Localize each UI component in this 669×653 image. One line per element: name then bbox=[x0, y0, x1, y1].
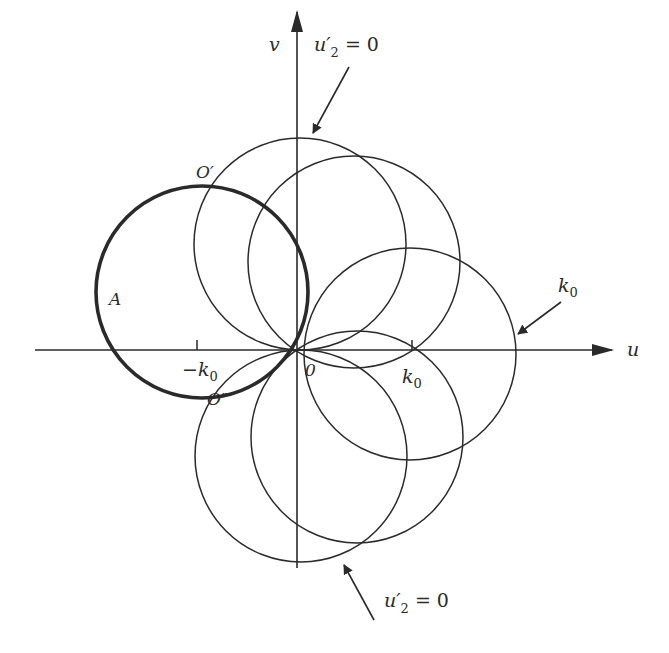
pointer-arrow-bottom bbox=[344, 565, 374, 620]
circle-family-diagram: v u 0 −k0 k0 A O′ O″ k0 u′2 = 0 u′2 = 0 bbox=[0, 0, 669, 653]
k0-annotation: k0 bbox=[558, 274, 578, 300]
tick-pos-k0-label: k0 bbox=[402, 365, 422, 391]
tick-neg-k0-label: −k0 bbox=[182, 358, 218, 384]
label-A: A bbox=[107, 289, 121, 309]
constraint-label-bottom: u′2 = 0 bbox=[384, 589, 449, 616]
pointer-arrow-k0 bbox=[518, 302, 561, 334]
circle-top bbox=[194, 138, 406, 350]
circle-upper-right bbox=[248, 156, 460, 368]
constraint-label-top: u′2 = 0 bbox=[314, 33, 379, 60]
u-axis-label: u bbox=[627, 338, 639, 360]
origin-label: 0 bbox=[305, 360, 316, 380]
v-axis-label: v bbox=[269, 33, 280, 55]
label-O-double-prime: O″ bbox=[207, 389, 228, 409]
circle-bottom bbox=[195, 350, 407, 562]
pointer-arrow-top bbox=[313, 67, 349, 133]
circle-right bbox=[304, 248, 516, 460]
label-O-prime: O′ bbox=[196, 162, 214, 182]
